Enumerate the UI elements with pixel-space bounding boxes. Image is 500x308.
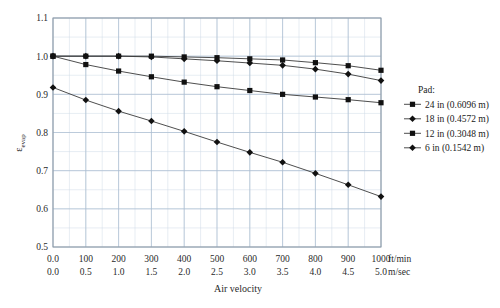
data-point-marker (280, 57, 285, 62)
y-axis-tick-label: 0.8 (36, 128, 48, 138)
data-point-marker (182, 80, 187, 85)
x-axis-tick-label-secondary: 0.0 (47, 267, 59, 277)
legend-item-label: 12 in (0.3048 m) (425, 129, 489, 140)
data-point-marker (346, 63, 351, 68)
x-axis-tick-label-primary: 100 (79, 254, 94, 264)
chart-canvas: 1.11.00.90.80.70.60.5 0.00.01000.52001.0… (0, 0, 500, 308)
x-axis-tick-label-secondary: 4.5 (342, 267, 354, 277)
x-axis-tick-label-primary: 700 (275, 254, 290, 264)
legend-title: Pad: (418, 85, 435, 95)
data-point-marker (313, 60, 318, 65)
data-point-marker (247, 88, 252, 93)
y-axis-title-subscript: evap (19, 134, 27, 148)
y-axis-tick-label: 0.6 (36, 204, 48, 214)
data-point-marker (50, 54, 55, 59)
legend-item-label: 18 in (0.4572 m) (425, 114, 489, 125)
x-axis-tick-label-secondary: 1.5 (145, 267, 157, 277)
x-axis-tick-label-secondary: 0.5 (80, 267, 92, 277)
data-point-marker (116, 68, 121, 73)
x-axis-tick-label-secondary: 2.0 (178, 267, 190, 277)
data-point-marker (214, 84, 219, 89)
x-axis-tick-label-secondary: 3.0 (244, 267, 256, 277)
x-axis-tick-label-primary: 400 (177, 254, 192, 264)
y-axis-tick-label: 1.1 (36, 13, 48, 23)
x-axis-tick-label-secondary: 4.0 (309, 267, 321, 277)
y-axis-tick-label: 0.9 (36, 90, 48, 100)
x-axis-tick-label-primary: 500 (210, 254, 225, 264)
x-axis-tick-label-primary: 900 (341, 254, 356, 264)
legend-marker-square (410, 102, 415, 107)
x-axis-tick-label-secondary: 5.0 (375, 267, 387, 277)
x-axis-title: Air velocity (214, 283, 262, 294)
x-axis-tick-label-primary: 600 (243, 254, 258, 264)
legend-marker-square (410, 131, 415, 136)
x-axis-tick-label-secondary: 2.5 (211, 267, 223, 277)
y-axis-tick-label: 0.5 (36, 242, 48, 252)
data-point-marker (280, 92, 285, 97)
data-point-marker (378, 68, 383, 73)
data-point-marker (313, 94, 318, 99)
data-point-marker (378, 100, 383, 105)
x-axis-unit-secondary: m/sec (388, 267, 410, 277)
x-axis-tick-label-primary: 200 (111, 254, 126, 264)
legend-item-label: 24 in (0.6096 m) (425, 100, 489, 111)
x-axis-tick-label-primary: 0.0 (47, 254, 59, 264)
x-axis-tick-label-primary: 300 (144, 254, 159, 264)
evaporative-efficiency-chart: 1.11.00.90.80.70.60.5 0.00.01000.52001.0… (0, 0, 500, 308)
x-axis-tick-label-secondary: 3.5 (277, 267, 289, 277)
data-point-marker (83, 62, 88, 67)
data-point-marker (346, 97, 351, 102)
x-axis-tick-label-secondary: 1.0 (113, 267, 125, 277)
x-axis-tick-label-primary: 800 (308, 254, 323, 264)
data-point-marker (149, 74, 154, 79)
legend-item-label: 6 in (0.1542 m) (425, 143, 484, 154)
y-axis-tick-label: 0.7 (36, 166, 48, 176)
y-axis-tick-label: 1.0 (36, 52, 48, 62)
x-axis-unit-primary: ft/min (388, 254, 411, 264)
